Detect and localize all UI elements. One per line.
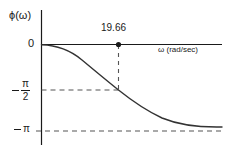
phase-curve (42, 45, 223, 127)
y-axis-label: ϕ(ω) (9, 10, 31, 21)
marker-dot-19-66 (116, 42, 121, 47)
fraction-numerator: π (21, 79, 30, 91)
x-axis-label: ω (rad/sec) (158, 46, 198, 54)
fraction-denominator: 2 (23, 91, 29, 102)
minus-sign-pi (14, 129, 21, 130)
phase-plot-figure: ϕ(ω) 0 ω (rad/sec) 19.66 π 2 π (0, 0, 228, 150)
y-tick-label-zero: 0 (28, 38, 34, 49)
y-tick-label-negative-pi: π (14, 124, 30, 134)
annotation-19-66: 19.66 (101, 23, 126, 33)
y-tick-label-negative-half-pi: π 2 (12, 79, 30, 102)
minus-sign-half-pi (12, 90, 19, 91)
pi-symbol: π (23, 124, 30, 134)
fraction-half-pi: π 2 (21, 79, 30, 102)
